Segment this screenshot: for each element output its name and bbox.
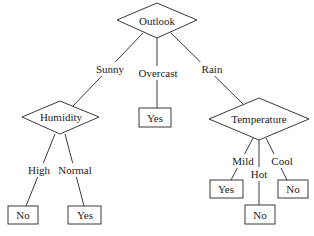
leaf-label: No [253, 209, 267, 221]
node-temperature: Temperature [209, 98, 309, 140]
edge-label-cool: Cool [271, 155, 292, 167]
edge-label-hot: Hot [251, 168, 268, 180]
leaf-mild-yes: Yes [210, 180, 243, 198]
leaf-label: Yes [218, 183, 234, 195]
edge-label-overcast: Overcast [138, 67, 177, 79]
leaf-overcast-yes: Yes [139, 108, 171, 127]
leaf-label: Yes [77, 209, 93, 221]
node-label: Temperature [231, 113, 287, 125]
edge-label-rain: Rain [202, 63, 223, 75]
leaf-label: No [16, 209, 30, 221]
leaf-hot-no: No [245, 205, 275, 224]
leaf-label: No [286, 183, 300, 195]
node-label: Humidity [40, 111, 83, 123]
leaf-cool-no: No [278, 180, 308, 198]
leaf-label: Yes [147, 112, 163, 124]
decision-tree-diagram: Outlook Sunny Overcast Rain Humidity Yes… [0, 0, 314, 236]
edge-label-high: High [28, 164, 51, 176]
edge-label-sunny: Sunny [96, 63, 125, 75]
node-humidity: Humidity [22, 101, 99, 134]
leaf-normal-yes: Yes [68, 206, 101, 224]
node-label: Outlook [139, 15, 176, 27]
edge-label-mild: Mild [232, 155, 254, 167]
edge-label-normal: Normal [58, 164, 92, 176]
leaf-high-no: No [8, 206, 38, 224]
node-outlook: Outlook [117, 3, 197, 38]
